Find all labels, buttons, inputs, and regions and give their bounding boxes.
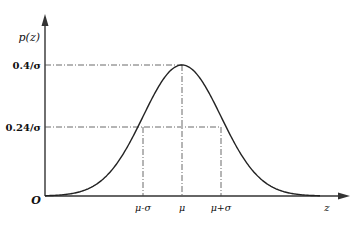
y-axis-arrow-icon: [42, 14, 49, 26]
x-axis-label: z: [323, 202, 330, 213]
x-axis-arrow-icon: [338, 193, 350, 200]
x-tick-mu-plus-sigma: μ+σ: [211, 202, 232, 213]
origin-label: O: [31, 194, 41, 207]
gaussian-chart: p(z) 0.4/σ 0.24/σ O μ-σ μ μ+σ z: [0, 0, 360, 227]
y-tick-peak: 0.4/σ: [13, 60, 41, 71]
x-tick-mu: μ: [179, 202, 185, 213]
y-axis-label: p(z): [19, 31, 40, 44]
y-tick-sigma: 0.24/σ: [6, 122, 41, 133]
guide-lines: [45, 65, 221, 196]
x-tick-mu-minus-sigma: μ-σ: [135, 202, 151, 213]
gaussian-curve: [45, 65, 320, 196]
